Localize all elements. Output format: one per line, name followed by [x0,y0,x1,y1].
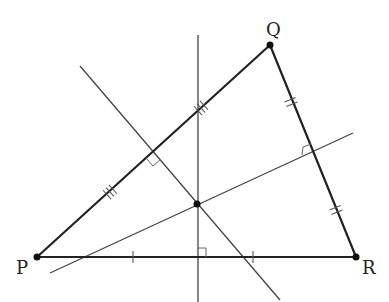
vertex-q [267,42,274,49]
vertex-p [34,254,41,261]
bisector-pq [80,66,280,300]
triangle-diagram: P Q R [0,0,389,302]
vertex-r [353,254,360,261]
right-angle-pq [146,158,161,166]
label-r: R [362,257,376,278]
label-p: P [16,257,28,278]
circumcenter-point [194,201,201,208]
label-q: Q [266,19,281,40]
side-qr [270,45,356,257]
right-angle-pr [198,248,206,257]
